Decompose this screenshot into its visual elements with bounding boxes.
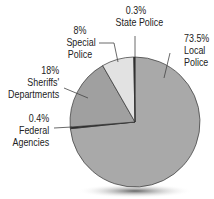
label-special-pct: 8% [66,24,93,36]
label-local-pct: 73.5% [184,32,209,44]
label-special-police: 8% Special Police [66,24,93,60]
leader-special [99,43,118,62]
label-sheriffs-line1: Sheriffs' [8,76,59,88]
label-special-line1: Special [66,36,93,48]
label-special-line2: Police [66,48,93,60]
label-local-line2: Police [184,56,209,68]
pie-slices [70,57,200,187]
label-local-police: 73.5% Local Police [184,32,209,68]
label-local-line1: Local [184,44,209,56]
label-federal-agencies: 0.4% Federal Agencies [12,112,49,148]
label-federal-line2: Agencies [12,136,49,148]
leader-federal [54,127,72,128]
label-sheriffs-line2: Departments [8,88,59,100]
label-sheriffs-pct: 18% [8,64,59,76]
label-state-line1: State Police [116,16,157,28]
label-sheriffs-departments: 18% Sheriffs' Departments [8,64,59,100]
label-federal-pct: 0.4% [12,112,49,124]
label-state-police: 0.3% State Police [116,4,157,28]
label-federal-line1: Federal [12,124,49,136]
label-state-pct: 0.3% [116,4,157,16]
